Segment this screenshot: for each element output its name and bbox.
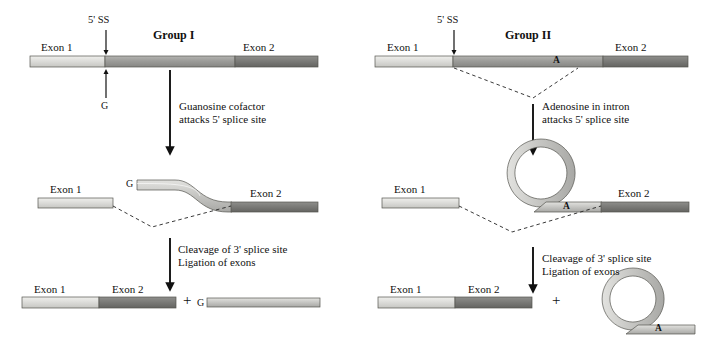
group2-stage1-branchpoint-label: A (553, 55, 560, 66)
group2-splice-site-label: 5' SS (437, 14, 458, 26)
group1-stage3-exon1-label: Exon 1 (34, 283, 65, 296)
group2-branch-dashed (454, 68, 578, 98)
group2-step2-line1: Cleavage of 3' splice site (542, 252, 652, 265)
group1-step1-line1: Guanosine cofactor (179, 100, 265, 113)
group1-step1-line2: attacks 5' splice site (179, 113, 266, 126)
group1-stage2-g-label: G (126, 178, 133, 190)
group1-plus-sign: + (183, 292, 191, 310)
group1-stage3-exon2-label: Exon 2 (112, 283, 143, 296)
group2-stage2-lariat (382, 139, 689, 232)
group2-step2-line2: Ligation of exons (542, 265, 620, 278)
group1-stage2-exon2-label: Exon 2 (250, 187, 281, 200)
group2-stage1-premrna (375, 56, 688, 67)
group1-stage1-exon1-label: Exon 1 (41, 41, 72, 54)
group1-released-intron (207, 298, 320, 307)
splicing-diagram (0, 0, 710, 360)
group2-plus-sign: + (552, 292, 560, 310)
group2-stage3-branchpoint-label: A (655, 323, 662, 334)
group1-stage3-g-label: G (197, 297, 204, 309)
group2-stage2-exon1-label: Exon 1 (394, 183, 425, 196)
group1-stage1-premrna (30, 56, 318, 67)
group1-title: Group I (153, 28, 194, 42)
group2-stage3-exon2-label: Exon 2 (468, 283, 499, 296)
group2-stage3-products (378, 268, 695, 334)
group1-stage2-exon1-label: Exon 1 (50, 183, 81, 196)
group2-stage3-exon1-label: Exon 1 (390, 283, 421, 296)
group1-splice-site-label: 5' SS (88, 14, 109, 26)
group2-stage1-exon2-label: Exon 2 (615, 41, 646, 54)
group1-step2-line1: Cleavage of 3' splice site (178, 243, 288, 256)
group2-step1-line1: Adenosine in intron (542, 100, 629, 113)
group1-stage1-exon2-label: Exon 2 (243, 41, 274, 54)
group2-lariat-ring (507, 139, 575, 207)
group2-title: Group II (505, 28, 551, 42)
group2-stage1-exon1-label: Exon 1 (387, 41, 418, 54)
group2-step1-line2: attacks 5' splice site (542, 113, 629, 126)
group1-stage3-products (22, 297, 320, 308)
group1-step2-line2: Ligation of exons (178, 256, 256, 269)
group2-stage2-exon2-label: Exon 2 (618, 187, 649, 200)
figure-canvas: 5' SS Group I Exon 1 Exon 2 G Guanosine … (0, 0, 710, 360)
group1-guanosine-cofactor-label: G (101, 100, 108, 112)
group2-stage2-branchpoint-label: A (563, 201, 570, 212)
